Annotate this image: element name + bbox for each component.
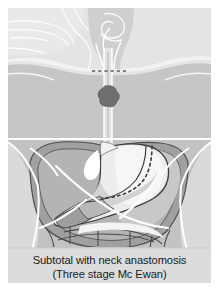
medical-illustration-figure: Subtotal with neck anastomosis (Three st…	[0, 0, 219, 298]
abdominal-contents	[30, 142, 188, 250]
caption-band	[8, 248, 211, 283]
anatomy-svg	[0, 0, 219, 298]
